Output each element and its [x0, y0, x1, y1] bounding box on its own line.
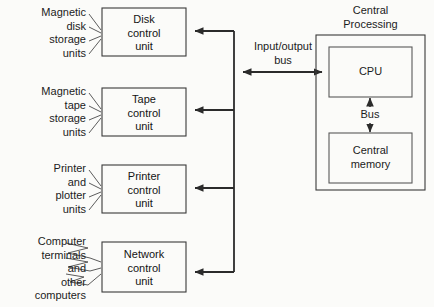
internal-bus-label: Bus	[345, 108, 395, 122]
central-processing-title-line1: Central	[353, 4, 388, 16]
control-unit-line: unit	[135, 275, 153, 287]
peripheral-line: storage	[49, 112, 86, 124]
control-unit-label-disk: Disk control unit	[102, 13, 186, 54]
peripheral-line: Computer	[38, 235, 86, 247]
control-unit-line: Disk	[133, 13, 154, 25]
diagram-canvas: Magnetic disk storage units Magnetic tap…	[0, 0, 434, 307]
central-memory-line2: memory	[351, 158, 391, 170]
peripheral-line: units	[63, 47, 86, 59]
control-unit-line: unit	[135, 197, 153, 209]
cpu-label-text: CPU	[359, 65, 382, 77]
peripheral-line: other	[61, 276, 86, 288]
control-unit-label-tape: Tape control unit	[102, 93, 186, 134]
peripheral-line: Magnetic	[41, 6, 86, 18]
peripheral-line: disk	[66, 20, 86, 32]
central-processing-title-line2: Processing	[343, 18, 397, 30]
control-unit-label-network: Network control unit	[102, 248, 186, 289]
control-unit-line: control	[127, 262, 160, 274]
control-unit-line: unit	[135, 120, 153, 132]
peripheral-line: units	[63, 126, 86, 138]
peripheral-line: terminals	[41, 249, 86, 261]
central-memory-label: Central memory	[329, 144, 412, 171]
peripheral-line: plotter	[55, 189, 86, 201]
control-unit-line: control	[127, 184, 160, 196]
central-processing-title: Central Processing	[320, 4, 421, 31]
control-unit-line: control	[127, 107, 160, 119]
control-unit-line: unit	[135, 40, 153, 52]
peripheral-connectors-magnetic-tape	[89, 93, 101, 133]
peripheral-line: and	[68, 176, 86, 188]
control-unit-label-printer: Printer control unit	[102, 170, 186, 211]
peripheral-label-magnetic-tape: Magnetic tape storage units	[0, 85, 86, 139]
peripheral-label-computer-terminals: Computer terminals and other computers	[0, 235, 86, 303]
peripheral-label-magnetic-disk: Magnetic disk storage units	[0, 6, 86, 60]
io-bus-label-line1: Input/output	[254, 40, 312, 52]
internal-bus-label-text: Bus	[361, 108, 380, 120]
peripheral-connectors-magnetic-disk	[89, 14, 101, 54]
control-unit-line: control	[127, 27, 160, 39]
control-unit-line: Tape	[132, 93, 156, 105]
peripheral-line: Printer	[54, 162, 86, 174]
peripheral-line: tape	[65, 99, 86, 111]
peripheral-connectors-printer-plotter	[89, 170, 101, 210]
peripheral-line: units	[63, 203, 86, 215]
peripheral-line: Magnetic	[41, 85, 86, 97]
central-memory-line1: Central	[353, 144, 388, 156]
peripheral-line: computers	[35, 289, 86, 301]
io-bus-label: Input/output bus	[238, 40, 328, 67]
control-unit-line: Network	[124, 248, 164, 260]
peripheral-line: and	[68, 262, 86, 274]
peripheral-label-printer-plotter: Printer and plotter units	[0, 162, 86, 216]
control-unit-line: Printer	[128, 170, 160, 182]
cpu-label: CPU	[329, 65, 412, 79]
peripheral-line: storage	[49, 33, 86, 45]
io-bus-trunk	[195, 31, 234, 272]
io-bus-label-line2: bus	[274, 54, 292, 66]
